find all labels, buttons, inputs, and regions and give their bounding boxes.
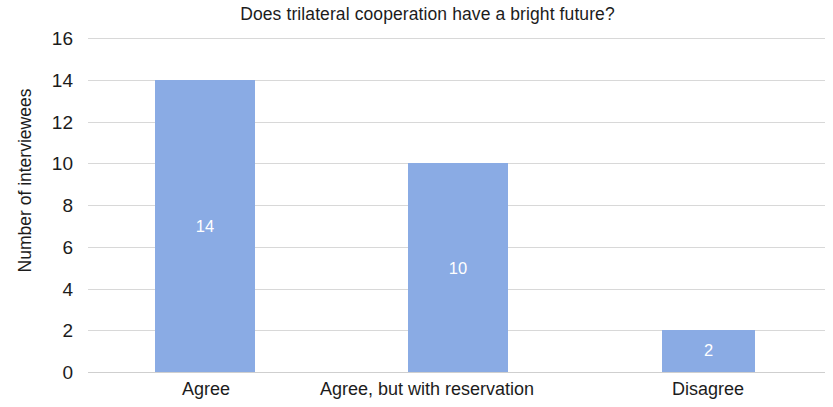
- bar-chart: Does trilateral cooperation have a brigh…: [0, 0, 833, 407]
- x-tick-label: Disagree: [672, 380, 744, 398]
- y-tick-label: 12: [52, 112, 73, 131]
- y-tick-label: 10: [52, 154, 73, 173]
- bar-value-label: 10: [408, 260, 508, 277]
- y-tick-label: 6: [62, 237, 73, 256]
- y-tick-label: 8: [62, 196, 73, 215]
- x-tick-label: Agree: [182, 380, 230, 398]
- chart-title: Does trilateral cooperation have a brigh…: [11, 4, 833, 25]
- y-tick-label: 2: [62, 321, 73, 340]
- y-axis-title: Number of interviewees: [15, 11, 36, 351]
- bar[interactable]: 10: [408, 163, 508, 372]
- y-tick-label: 0: [62, 363, 73, 382]
- x-tick-label: Agree, but with reservation: [320, 380, 534, 398]
- bar-value-label: 2: [662, 342, 755, 359]
- y-tick-label: 16: [52, 29, 73, 48]
- bar[interactable]: 14: [155, 80, 255, 372]
- plot-area: 161412108642014102: [88, 38, 825, 372]
- axis-baseline: 0: [88, 372, 825, 373]
- y-tick-label: 4: [62, 279, 73, 298]
- bar-value-label: 14: [155, 218, 255, 235]
- bar[interactable]: 2: [662, 330, 755, 372]
- gridline: 16: [88, 38, 825, 39]
- y-tick-label: 14: [52, 70, 73, 89]
